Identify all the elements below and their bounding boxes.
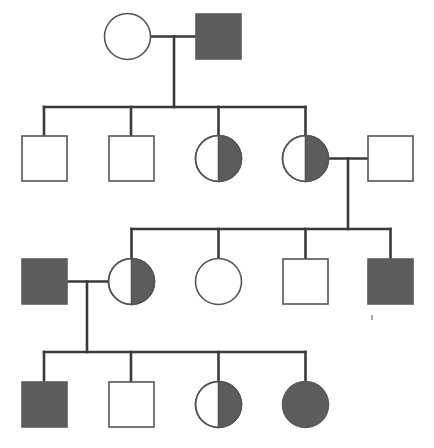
symbol-half-fill-II-3	[219, 136, 242, 182]
symbol-circle-III-3[interactable]	[196, 259, 242, 305]
individual-III-1[interactable]	[22, 259, 67, 304]
individual-I-2[interactable]	[196, 14, 241, 59]
symbol-square-III-1[interactable]	[22, 259, 67, 304]
individual-IV-1[interactable]	[22, 382, 67, 427]
individual-III-4[interactable]	[283, 259, 328, 304]
individual-II-2[interactable]	[109, 136, 154, 181]
symbol-circle-I-1[interactable]	[105, 14, 151, 60]
individual-I-1[interactable]	[105, 14, 151, 60]
sibship-group-S3	[44, 352, 306, 382]
symbol-half-fill-IV-3	[219, 382, 242, 428]
scan-artifact-speck-1	[371, 315, 373, 320]
sibship-group-S1	[44, 107, 306, 136]
individual-IV-3[interactable]	[196, 382, 242, 428]
individual-III-5[interactable]	[368, 259, 413, 304]
mating-group-M3	[67, 282, 109, 353]
individual-II-4[interactable]	[283, 136, 329, 182]
mating-group-M1	[151, 37, 197, 108]
individual-III-2[interactable]	[109, 259, 155, 305]
individual-IV-4[interactable]	[283, 382, 329, 428]
symbol-half-fill-III-2	[132, 259, 155, 305]
pedigree-canvas	[0, 0, 434, 448]
symbol-square-II-1[interactable]	[22, 136, 67, 181]
symbol-square-IV-2[interactable]	[109, 382, 154, 427]
symbol-square-I-2[interactable]	[196, 14, 241, 59]
symbol-half-fill-II-4	[306, 136, 329, 182]
individual-II-3[interactable]	[196, 136, 242, 182]
symbol-square-IV-1[interactable]	[22, 382, 67, 427]
sibship-group-S2	[132, 229, 391, 259]
individual-III-3[interactable]	[196, 259, 242, 305]
symbol-circle-IV-4[interactable]	[283, 382, 329, 428]
individual-II-1[interactable]	[22, 136, 67, 181]
pedigree-chart	[0, 0, 434, 448]
symbol-square-II-2[interactable]	[109, 136, 154, 181]
individual-II-5[interactable]	[368, 136, 413, 181]
connector-lines-layer	[44, 37, 391, 383]
mating-group-M2	[329, 159, 369, 230]
symbol-square-III-4[interactable]	[283, 259, 328, 304]
artifacts-layer	[371, 315, 373, 320]
symbol-square-III-5[interactable]	[368, 259, 413, 304]
symbol-square-II-5[interactable]	[368, 136, 413, 181]
individual-IV-2[interactable]	[109, 382, 154, 427]
